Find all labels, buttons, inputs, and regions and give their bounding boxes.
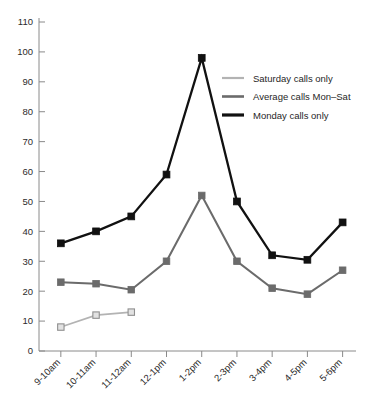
y-tick-label: 110 [18, 16, 33, 27]
data-point-marker [234, 198, 241, 205]
x-tick-label: 1-2pm [176, 357, 203, 384]
chart-legend: Saturday calls onlyAverage calls Mon–Sat… [222, 73, 351, 121]
data-point-marker [198, 54, 205, 61]
data-point-marker [93, 228, 100, 235]
data-point-marker [198, 192, 205, 199]
data-point-marker [128, 286, 135, 293]
x-tick-label: 9-10am [32, 357, 63, 388]
line-chart: 0102030405060708090100110 9-10am10-11am1… [0, 0, 365, 397]
y-tick-label: 100 [17, 46, 33, 57]
series-line [61, 195, 343, 294]
data-point-marker [93, 280, 100, 287]
x-axis: 9-10am10-11am11-12am12-1pm1-2pm2-3pm3-4p… [32, 351, 356, 390]
x-tick-label: 11-12am [99, 357, 133, 391]
data-point-marker [163, 171, 170, 178]
x-tick-label: 5-6pm [317, 357, 344, 384]
x-tick-label: 10-11am [64, 357, 98, 391]
legend-label: Average calls Mon–Sat [253, 91, 351, 102]
data-point-marker [128, 213, 135, 220]
data-point-marker [58, 279, 65, 286]
y-tick-label: 90 [22, 76, 33, 87]
data-point-marker [269, 252, 276, 259]
x-tick-label: 12-1pm [137, 357, 168, 388]
y-tick-label: 0 [28, 345, 33, 356]
series-2 [58, 192, 346, 297]
series-3 [57, 54, 346, 263]
y-tick-label: 70 [22, 136, 33, 147]
data-point-marker [128, 309, 134, 315]
series-1 [58, 309, 135, 330]
data-point-marker [57, 240, 64, 247]
data-point-marker [304, 291, 311, 298]
y-tick-label: 40 [22, 226, 33, 237]
y-tick-label: 50 [22, 196, 33, 207]
data-point-marker [304, 256, 311, 263]
legend-label: Saturday calls only [253, 73, 333, 84]
data-point-marker [269, 285, 276, 292]
y-tick-label: 30 [22, 256, 33, 267]
y-tick-label: 20 [22, 286, 33, 297]
data-point-marker [58, 324, 64, 330]
data-point-marker [93, 312, 99, 318]
y-axis: 0102030405060708090100110 [17, 16, 45, 356]
y-tick-label: 10 [22, 315, 33, 326]
legend-label: Monday calls only [253, 110, 329, 121]
series-line [61, 58, 343, 260]
y-tick-label: 60 [22, 166, 33, 177]
x-tick-label: 3-4pm [247, 357, 274, 384]
data-point-marker [339, 267, 346, 274]
y-tick-label: 80 [22, 106, 33, 117]
x-tick-label: 2-3pm [212, 357, 239, 384]
data-point-marker [339, 219, 346, 226]
data-point-marker [234, 258, 241, 265]
data-point-marker [163, 258, 170, 265]
x-tick-label: 4-5pm [282, 357, 309, 384]
chart-canvas: 0102030405060708090100110 9-10am10-11am1… [0, 0, 365, 397]
